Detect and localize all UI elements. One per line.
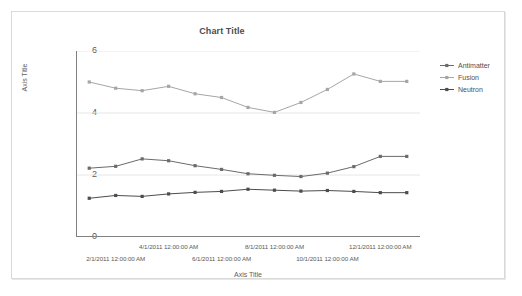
series-marker: [167, 159, 170, 162]
series-marker: [326, 189, 329, 192]
series-marker: [220, 190, 223, 193]
x-axis-title: Axis Title: [76, 271, 420, 278]
series-marker: [405, 155, 408, 158]
series-marker: [379, 80, 382, 83]
legend-line-icon: [440, 85, 454, 94]
series-marker: [88, 197, 91, 200]
series-marker: [141, 89, 144, 92]
series-marker: [299, 101, 302, 104]
series-marker: [299, 190, 302, 193]
series-marker: [141, 157, 144, 160]
series-marker: [405, 80, 408, 83]
series-marker: [220, 168, 223, 171]
legend-item[interactable]: Neutron: [440, 84, 522, 95]
series-marker: [273, 111, 276, 114]
series-marker: [141, 195, 144, 198]
y-axis-title: Axis Title: [21, 43, 28, 113]
x-tick-label: 2/1/2011 12:00:00 AM: [71, 255, 161, 262]
series-marker: [114, 194, 117, 197]
chart-frame: Chart Title Axis Title 0246 2/1/2011 12:…: [11, 11, 505, 279]
series-marker: [193, 92, 196, 95]
legend-label: Fusion: [458, 74, 479, 81]
series-marker: [405, 191, 408, 194]
series-marker: [88, 80, 91, 83]
x-tick-label: 6/1/2011 12:00:00 AM: [177, 255, 267, 262]
legend-item[interactable]: Fusion: [440, 72, 522, 83]
series-marker: [352, 190, 355, 193]
series-marker: [379, 191, 382, 194]
legend-line-icon: [440, 61, 454, 70]
series-marker: [193, 164, 196, 167]
series-marker: [193, 191, 196, 194]
series-marker: [88, 167, 91, 170]
series-marker: [246, 106, 249, 109]
series-marker: [352, 72, 355, 75]
legend-line-icon: [440, 73, 454, 82]
series-marker: [246, 172, 249, 175]
x-tick-label: 12/1/2011 12:00:00 AM: [335, 243, 425, 250]
plot-area: [76, 51, 420, 237]
series-marker: [220, 96, 223, 99]
series-marker: [114, 87, 117, 90]
series-marker: [273, 174, 276, 177]
series-marker: [114, 165, 117, 168]
chart-title: Chart Title: [12, 26, 432, 36]
series-marker: [379, 155, 382, 158]
series-marker: [246, 188, 249, 191]
legend-label: Antimatter: [458, 62, 490, 69]
x-tick-label: 4/1/2011 12:00:00 AM: [124, 243, 214, 250]
x-tick-label: 10/1/2011 12:00:00 AM: [282, 255, 372, 262]
series-marker: [326, 88, 329, 91]
series-marker: [326, 172, 329, 175]
series-marker: [299, 175, 302, 178]
chart-plot-svg: [76, 51, 420, 237]
x-tick-label: 8/1/2011 12:00:00 AM: [229, 243, 319, 250]
series-marker: [273, 189, 276, 192]
legend-label: Neutron: [458, 86, 483, 93]
series-marker: [167, 192, 170, 195]
chart-legend: AntimatterFusionNeutron: [440, 60, 522, 96]
series-marker: [352, 165, 355, 168]
legend-item[interactable]: Antimatter: [440, 60, 522, 71]
series-marker: [167, 85, 170, 88]
